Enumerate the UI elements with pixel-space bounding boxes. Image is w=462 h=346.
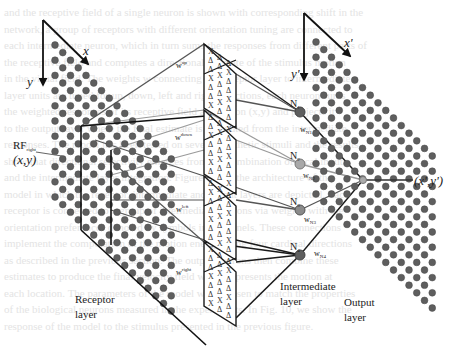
output-layer-label-1: Output <box>344 296 375 308</box>
delta-symbol: Δ <box>226 218 231 227</box>
delta-symbol: Δ <box>208 263 213 272</box>
delta-symbol: Δ <box>217 119 222 128</box>
grid-dot <box>359 191 366 198</box>
delta-symbol: Δ <box>208 224 213 233</box>
x-symbol: X <box>217 296 223 305</box>
delta-symbol: Δ <box>208 56 213 65</box>
weight-labels: wup wdown wleft wright <box>175 60 192 277</box>
grid-dot <box>83 87 90 94</box>
grid-dot <box>152 186 159 193</box>
grid-dot <box>114 224 121 231</box>
grid-dot <box>382 259 389 266</box>
grid-dot <box>367 168 374 175</box>
grid-dot <box>351 183 358 190</box>
w-left-label: wleft <box>176 204 189 214</box>
grid-dot <box>121 110 128 117</box>
grid-dot <box>98 87 105 94</box>
grid-dot <box>98 163 105 170</box>
x-axis-arrow-icon <box>43 20 88 64</box>
delta-symbol: Δ <box>226 59 231 68</box>
grid-dot <box>413 274 420 281</box>
delta-symbol: Δ <box>208 167 213 176</box>
grid-dot <box>98 178 105 185</box>
intermediate-panels: XΔΔΔΔXΔXΔXΔΔΔΔXΔXΔXΔΔΔΔXΔXΔXΔΔΔΔXΔXΔXΔΔΔ… <box>204 44 236 326</box>
node-n4-label: N4 <box>290 241 300 253</box>
grid-dot <box>421 297 428 304</box>
grid-dot <box>121 156 128 163</box>
x-symbol: X <box>208 101 214 110</box>
grid-dot <box>114 163 121 170</box>
delta-symbol: Δ <box>208 281 213 290</box>
grid-dot <box>382 107 389 114</box>
grid-dot <box>429 198 436 205</box>
intermediate-layer-label-1: Intermediate <box>280 280 336 292</box>
x-symbol: X <box>217 185 223 194</box>
grid-dot <box>106 125 113 132</box>
grid-dot <box>390 267 397 274</box>
grid-dot <box>328 160 335 167</box>
grid-dot <box>121 186 128 193</box>
grid-dot <box>382 122 389 129</box>
grid-dot <box>320 137 327 144</box>
grid-dot <box>328 84 335 91</box>
grid-dot <box>90 125 97 132</box>
grid-dot <box>83 178 90 185</box>
delta-symbol: Δ <box>208 140 213 149</box>
grid-dot <box>152 156 159 163</box>
grid-dot <box>328 145 335 152</box>
delta-symbol: Δ <box>208 113 213 122</box>
grid-dot <box>344 84 351 91</box>
grid-dot <box>413 213 420 220</box>
grid-dot <box>359 115 366 122</box>
grid-dot <box>145 270 152 277</box>
grid-dot <box>390 130 397 137</box>
receptor-axes: x y <box>25 20 89 89</box>
grid-dot <box>83 163 90 170</box>
delta-symbol: Δ <box>208 290 213 299</box>
grid-dot <box>406 251 413 258</box>
grid-dot <box>137 262 144 269</box>
x-symbol: X <box>226 152 232 161</box>
grid-dot <box>52 133 59 140</box>
grid-dot <box>336 61 343 68</box>
grid-dot <box>351 77 358 84</box>
grid-dot <box>382 183 389 190</box>
grid-dot <box>160 239 167 246</box>
delta-symbol: Δ <box>226 161 231 170</box>
grid-dot <box>367 183 374 190</box>
grid-dot <box>152 262 159 269</box>
grid-dot <box>336 77 343 84</box>
grid-dot <box>137 186 144 193</box>
grid-dot <box>52 194 59 201</box>
grid-dot <box>375 175 382 182</box>
grid-dot <box>344 160 351 167</box>
grid-dot <box>421 251 428 258</box>
grid-dot <box>406 236 413 243</box>
grid-dot <box>320 198 327 205</box>
grid-dot <box>313 84 320 91</box>
x-symbol: X <box>217 269 223 278</box>
grid-dot <box>382 137 389 144</box>
grid-dot <box>344 130 351 137</box>
grid-dot <box>137 125 144 132</box>
grid-dot <box>59 186 66 193</box>
grid-dot <box>429 213 436 220</box>
grid-dot <box>320 61 327 68</box>
grid-dot <box>344 145 351 152</box>
grid-dot <box>160 285 167 292</box>
grid-dot <box>406 221 413 228</box>
grid-dot <box>129 178 136 185</box>
receptor-y-label: y <box>25 74 33 89</box>
grid-dot <box>90 95 97 102</box>
grid-dot <box>375 251 382 258</box>
grid-dot <box>129 133 136 140</box>
grid-dot <box>67 72 74 79</box>
grid-dot <box>121 232 128 239</box>
grid-dot <box>390 115 397 122</box>
grid-dot <box>398 153 405 160</box>
grid-dot <box>145 254 152 261</box>
grid-dot <box>106 110 113 117</box>
x-symbol: X <box>217 98 223 107</box>
grid-dot <box>390 236 397 243</box>
grid-dot <box>83 148 90 155</box>
